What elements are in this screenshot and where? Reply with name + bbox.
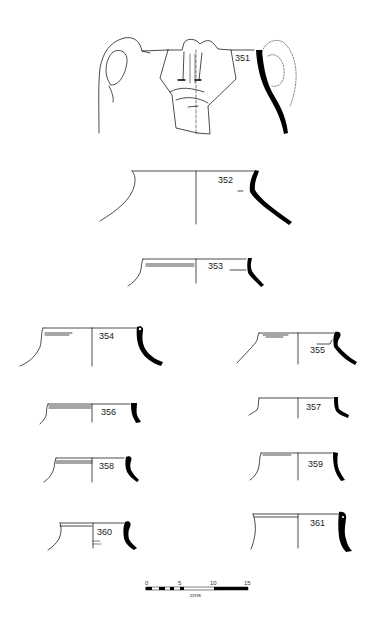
vessel-361-section — [338, 512, 352, 552]
label-353: 353 — [208, 262, 223, 271]
vessel-354-section — [137, 326, 163, 366]
label-360: 360 — [97, 528, 112, 537]
vessel-356-section — [131, 403, 141, 423]
vessel-354-drawing — [20, 328, 138, 366]
scale-bar — [146, 587, 248, 590]
vessel-355-section — [333, 332, 357, 365]
vessel-357-section — [334, 397, 349, 418]
vessel-356-drawing — [40, 404, 130, 424]
scale-unit: cms — [190, 592, 201, 598]
pottery-plate: 351 352 353 354 355 356 357 358 359 360 … — [0, 0, 377, 626]
label-355: 355 — [310, 346, 325, 355]
label-359: 359 — [308, 460, 323, 469]
label-352: 352 — [218, 176, 233, 185]
label-361: 361 — [310, 519, 325, 528]
scale-tick-10: 10 — [210, 580, 217, 586]
vessel-358-section — [125, 456, 139, 482]
label-351: 351 — [235, 54, 250, 63]
vessel-351-section — [256, 50, 288, 134]
vessel-360-section — [123, 521, 137, 550]
scale-tick-0: 0 — [145, 580, 148, 586]
label-358: 358 — [99, 462, 114, 471]
label-354: 354 — [99, 332, 114, 341]
scale-tick-15: 15 — [244, 580, 251, 586]
vessel-360-drawing — [48, 523, 124, 550]
scale-tick-5: 5 — [178, 580, 181, 586]
label-357: 357 — [306, 403, 321, 412]
vessel-359-section — [333, 452, 345, 481]
vessel-353-section — [247, 258, 264, 287]
vessel-352-section — [250, 170, 292, 225]
pottery-drawings — [0, 0, 377, 626]
label-356: 356 — [101, 408, 116, 417]
vessel-353-drawing — [128, 259, 246, 286]
vessel-361-drawing — [251, 514, 343, 549]
